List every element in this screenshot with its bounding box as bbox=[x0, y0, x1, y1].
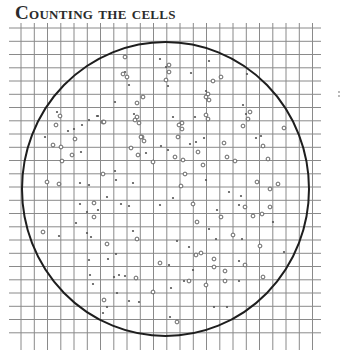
fragment-dot bbox=[338, 91, 340, 93]
cell-dot bbox=[240, 195, 242, 197]
cell-dot bbox=[194, 253, 198, 257]
cell-dot bbox=[86, 232, 88, 234]
cell-dot bbox=[160, 145, 162, 147]
cell-dot bbox=[268, 187, 272, 191]
cell-dot bbox=[136, 153, 140, 157]
cell-dot bbox=[86, 211, 88, 213]
cell-dot bbox=[225, 155, 229, 159]
cell-dot bbox=[204, 283, 208, 287]
cell-dot bbox=[107, 258, 109, 260]
cell-dot bbox=[121, 72, 125, 76]
cell-dot bbox=[219, 215, 223, 219]
cell-dot bbox=[260, 135, 262, 137]
cell-dot bbox=[208, 228, 210, 230]
cell-dot bbox=[96, 115, 98, 117]
cell-dot bbox=[206, 117, 210, 121]
cell-dot bbox=[261, 275, 265, 279]
cell-dot bbox=[212, 257, 216, 261]
cell-dot bbox=[223, 269, 227, 273]
cell-dot bbox=[168, 264, 170, 266]
cell-dot bbox=[167, 70, 171, 74]
cell-dot bbox=[137, 121, 141, 125]
cell-dot bbox=[113, 276, 115, 278]
cell-dot bbox=[115, 253, 117, 255]
cell-dot bbox=[124, 275, 126, 277]
cell-dot bbox=[228, 191, 230, 193]
cell-dot bbox=[212, 265, 216, 269]
cell-dot bbox=[88, 119, 90, 121]
cell-dot bbox=[167, 85, 169, 87]
cell-dot bbox=[195, 220, 199, 224]
cell-dot bbox=[191, 202, 195, 206]
cell-dot bbox=[115, 179, 117, 181]
cell-dot bbox=[238, 260, 240, 262]
cell-dot bbox=[242, 104, 244, 106]
cell-dot bbox=[102, 298, 106, 302]
cell-dot bbox=[241, 124, 245, 128]
cell-dot bbox=[90, 236, 92, 238]
cell-dot bbox=[164, 78, 168, 82]
cell-dot bbox=[116, 292, 118, 294]
cell-dot bbox=[188, 246, 190, 248]
cell-dot bbox=[268, 205, 272, 209]
cell-dot bbox=[231, 233, 235, 237]
cell-dot bbox=[207, 98, 211, 102]
cell-dot bbox=[201, 163, 205, 167]
cell-dot bbox=[151, 290, 155, 294]
cell-dot bbox=[92, 201, 96, 205]
cell-dot bbox=[260, 212, 264, 216]
cell-dot bbox=[176, 240, 178, 242]
cell-dot bbox=[159, 58, 161, 60]
cell-dot bbox=[145, 152, 147, 154]
cell-dot bbox=[203, 137, 205, 139]
cell-dot bbox=[79, 182, 81, 184]
cell-dot bbox=[59, 145, 63, 149]
cell-dot bbox=[125, 75, 129, 79]
cell-dot bbox=[123, 55, 127, 59]
cell-dot bbox=[205, 179, 207, 181]
cell-dot bbox=[251, 214, 255, 218]
cell-dot bbox=[128, 300, 130, 302]
cell-dot bbox=[142, 139, 146, 143]
cell-dot bbox=[88, 184, 90, 186]
cell-dot bbox=[92, 215, 96, 219]
cell-dot bbox=[196, 150, 200, 154]
cell-dot bbox=[189, 143, 191, 145]
cell-dot bbox=[180, 127, 184, 131]
cell-dot bbox=[73, 137, 77, 141]
cell-dot bbox=[183, 172, 187, 176]
cell-dot bbox=[243, 263, 247, 267]
cell-dot bbox=[132, 182, 134, 184]
cell-dot bbox=[120, 203, 122, 205]
cell-dot bbox=[204, 95, 208, 99]
cell-dot bbox=[133, 118, 137, 122]
cell-dot bbox=[101, 172, 105, 176]
cell-dot bbox=[282, 126, 286, 130]
cell-dot bbox=[241, 238, 243, 240]
cell-dot bbox=[81, 124, 83, 126]
cell-dot bbox=[41, 230, 45, 234]
cell-dot bbox=[195, 141, 197, 143]
cell-dot bbox=[199, 251, 203, 255]
cell-dot bbox=[190, 72, 192, 74]
cell-dot bbox=[60, 159, 64, 163]
fragment-dot bbox=[338, 95, 340, 97]
cell-dot bbox=[75, 222, 77, 224]
cell-dot bbox=[165, 66, 167, 68]
cell-dot bbox=[177, 123, 181, 127]
cell-dot bbox=[172, 197, 174, 199]
cell-dot bbox=[246, 73, 248, 75]
cell-dot bbox=[57, 182, 61, 186]
cell-dot bbox=[213, 306, 215, 308]
cell-dot bbox=[129, 146, 133, 150]
cell-dot bbox=[73, 128, 75, 130]
cell-dot bbox=[79, 203, 81, 205]
cell-dot bbox=[167, 149, 169, 151]
cell-dot bbox=[135, 101, 139, 105]
cell-dot bbox=[159, 204, 161, 206]
cell-dot bbox=[158, 261, 162, 265]
cell-dot bbox=[175, 320, 179, 324]
cell-dot bbox=[134, 276, 138, 280]
cell-dot bbox=[139, 135, 143, 139]
cell-dot bbox=[238, 280, 240, 282]
